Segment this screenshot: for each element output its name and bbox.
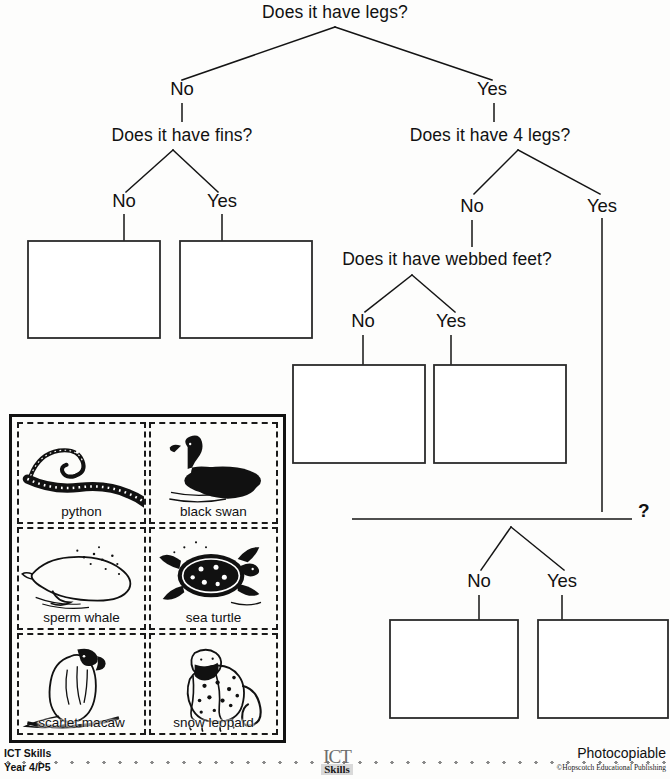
edge-4legs-yes xyxy=(518,150,600,194)
worksheet-page: Does it have legs? No Yes Does it have f… xyxy=(0,0,670,779)
question-does-it-have-webbed-feet: Does it have webbed feet? xyxy=(342,249,552,269)
label-4legs-no: No xyxy=(460,195,484,216)
animal-card-label: python xyxy=(61,504,102,522)
animal-card-label: sperm whale xyxy=(43,610,120,628)
answer-box-webbed-yes[interactable] xyxy=(434,365,566,463)
edge-unknown-yes xyxy=(511,527,564,570)
question-does-it-have-legs: Does it have legs? xyxy=(262,2,408,22)
label-webbed-yes: Yes xyxy=(436,310,466,331)
label-4legs-yes: Yes xyxy=(587,195,617,216)
animal-card-black-swan[interactable]: black swan xyxy=(149,422,278,524)
answer-box-webbed-no[interactable] xyxy=(293,365,425,463)
edge-unknown-no xyxy=(481,527,511,570)
footer-series-title: ICT Skills xyxy=(4,746,51,760)
animal-card-sperm-whale[interactable]: sperm whale xyxy=(17,527,146,629)
logo-skills-text: Skills xyxy=(321,764,353,775)
answer-box-fins-yes[interactable] xyxy=(180,241,312,338)
edge-4legs-no xyxy=(474,150,518,194)
footer-right-text: Photocopiable ©Hopscotch Educational Pub… xyxy=(557,745,666,773)
animal-card-label: scarlet macaw xyxy=(38,715,124,733)
label-webbed-no: No xyxy=(351,310,375,331)
footer-year-level: Year 4/P5 xyxy=(4,760,51,774)
animal-card-sea-turtle[interactable]: sea turtle xyxy=(149,527,278,629)
edge-webbed-no xyxy=(365,275,412,312)
label-unknown-no: No xyxy=(467,570,491,591)
edge-fins-no xyxy=(126,150,173,192)
animal-card-snow-leopard[interactable]: snow leopard xyxy=(149,633,278,735)
answer-box-unknown-yes[interactable] xyxy=(538,620,668,718)
answer-box-fins-no[interactable] xyxy=(28,241,160,338)
edge-legs-no xyxy=(182,27,335,80)
copyright-notice: ©Hopscotch Educational Publishing xyxy=(557,762,666,773)
label-legs-yes: Yes xyxy=(477,78,507,99)
animal-cut-out-cards-panel: python black swan sperm whale sea turtle… xyxy=(9,414,286,743)
question-mark-label: ? xyxy=(638,500,650,521)
question-does-it-have-4-legs: Does it have 4 legs? xyxy=(410,125,571,145)
edge-fins-yes xyxy=(173,150,218,192)
animal-card-python[interactable]: python xyxy=(17,422,146,524)
photocopiable-label: Photocopiable xyxy=(557,745,666,762)
edge-webbed-yes xyxy=(412,275,455,312)
edge-legs-yes xyxy=(335,27,492,80)
ict-skills-logo: ICT Skills xyxy=(306,747,368,777)
footer-left-text: ICT Skills Year 4/P5 xyxy=(4,746,51,774)
page-footer: ICT Skills Year 4/P5 ICT Skills Photocop… xyxy=(0,745,670,779)
animal-card-scarlet-macaw[interactable]: scarlet macaw xyxy=(17,633,146,735)
answer-box-unknown-no[interactable] xyxy=(390,620,518,718)
animal-card-label: black swan xyxy=(180,504,247,522)
label-unknown-yes: Yes xyxy=(547,570,577,591)
animal-card-label: sea turtle xyxy=(186,610,242,628)
label-fins-no: No xyxy=(112,190,136,211)
logo-ict-text: ICT xyxy=(323,749,351,764)
animal-card-grid: python black swan sperm whale sea turtle… xyxy=(17,422,278,735)
animal-card-label: snow leopard xyxy=(173,715,253,733)
label-fins-yes: Yes xyxy=(207,190,237,211)
label-legs-no: No xyxy=(170,78,194,99)
question-does-it-have-fins: Does it have fins? xyxy=(112,125,253,145)
